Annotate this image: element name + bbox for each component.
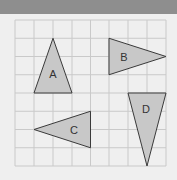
grid-diagram: A B C D — [0, 0, 177, 180]
triangle-c: C — [34, 111, 91, 148]
label-c: C — [70, 124, 78, 136]
label-d: D — [142, 103, 150, 115]
triangle-b: B — [109, 38, 166, 75]
triangle-a: A — [34, 38, 72, 93]
label-a: A — [49, 68, 57, 80]
label-b: B — [120, 51, 127, 63]
